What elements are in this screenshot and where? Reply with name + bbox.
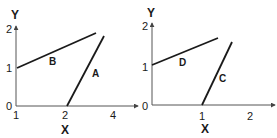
left-y-tick-1: 1 xyxy=(6,62,12,74)
left-x-tick-1: 1 xyxy=(13,109,19,121)
line-c-label: C xyxy=(219,73,226,84)
right-x-tick-2: 2 xyxy=(247,110,253,122)
line-d-label: D xyxy=(179,57,186,68)
right-y-tick-0: 0 xyxy=(142,100,148,112)
left-x-tick-2: 2 xyxy=(62,109,68,121)
right-y-axis-label: Y xyxy=(147,6,155,20)
line-a-label: A xyxy=(92,68,99,79)
diagram-canvas: Y 2 1 0 1 2 4 X B A Y 2 1 0 1 2 X D C xyxy=(0,0,277,138)
line-c xyxy=(202,42,232,105)
left-y-tick-0: 0 xyxy=(6,100,12,112)
left-y-tick-2: 2 xyxy=(6,23,12,35)
right-x-axis-label: X xyxy=(201,122,209,136)
right-x-tick-1: 1 xyxy=(199,110,205,122)
left-chart: Y 2 1 0 1 2 4 X B A xyxy=(6,8,138,137)
left-x-tick-4: 4 xyxy=(110,109,116,121)
line-b xyxy=(17,33,96,68)
left-y-axis-label: Y xyxy=(11,8,19,22)
right-chart: Y 2 1 0 1 2 X D C xyxy=(142,6,275,136)
right-y-tick-1: 1 xyxy=(142,61,148,73)
right-y-tick-2: 2 xyxy=(142,20,148,32)
left-x-axis-label: X xyxy=(61,123,69,137)
line-b-label: B xyxy=(49,56,56,67)
